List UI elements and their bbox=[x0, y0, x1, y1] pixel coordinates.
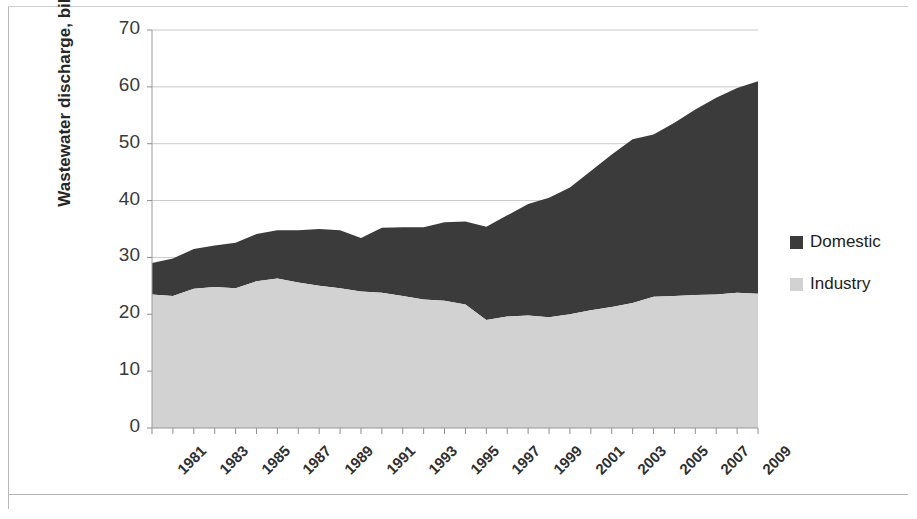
plot-area bbox=[0, 0, 917, 519]
legend-swatch-domestic bbox=[790, 236, 803, 249]
chart-figure: Wastewater discharge, billion m3/year 01… bbox=[0, 0, 917, 519]
y-axis-ticks bbox=[147, 30, 152, 428]
x-axis-ticks bbox=[152, 428, 758, 434]
legend-swatch-industry bbox=[790, 278, 803, 291]
chart-legend: Domestic Industry bbox=[790, 232, 881, 316]
legend-label-domestic: Domestic bbox=[810, 232, 881, 252]
area-series-group bbox=[152, 81, 758, 428]
legend-label-industry: Industry bbox=[810, 274, 870, 294]
legend-item-domestic[interactable]: Domestic bbox=[790, 232, 881, 252]
legend-item-industry[interactable]: Industry bbox=[790, 274, 881, 294]
